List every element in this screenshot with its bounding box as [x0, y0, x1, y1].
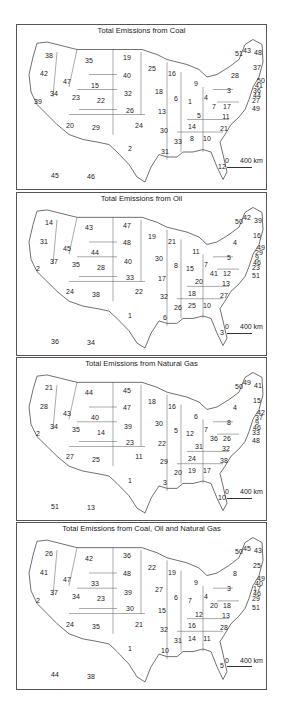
state-rank-ok: 11 [135, 453, 142, 460]
state-rank-ma: 37 [253, 64, 261, 71]
state-rank-ar: 29 [160, 458, 168, 465]
state-rank-va: 17 [223, 102, 231, 109]
state-rank-nd: 45 [123, 386, 131, 393]
state-rank-mn: 19 [148, 232, 156, 239]
state-rank-ny: 4 [233, 239, 237, 246]
state-rank-co: 14 [97, 428, 105, 435]
state-rank-sd: 47 [123, 404, 131, 411]
state-rank-ak: 38 [87, 672, 95, 679]
state-rank-ms: 33 [174, 137, 182, 144]
state-rank-ks: 23 [126, 438, 134, 445]
state-rank-ak: 13 [87, 503, 95, 510]
state-rank-vt: 50 [235, 218, 243, 225]
state-rank-wa: 14 [45, 219, 53, 226]
state-rank-dc: 51 [252, 272, 260, 279]
state-rank-ne: 40 [124, 257, 132, 264]
scale-bar [227, 496, 252, 499]
state-rank-id: 43 [63, 410, 71, 417]
state-rank-ky: 31 [195, 443, 203, 450]
state-rank-co: 22 [97, 96, 105, 103]
state-rank-or: 28 [40, 402, 48, 409]
state-rank-mt: 42 [85, 554, 93, 561]
panel-title: Total Emissions from Coal, Oil and Natur… [17, 524, 266, 533]
state-rank-md: 23 [252, 263, 260, 270]
state-rank-me: 41 [254, 381, 262, 388]
state-rank-ca: 2 [36, 264, 40, 271]
map-panel-coal: Total Emissions from Coal 38423947343515… [16, 24, 267, 190]
state-rank-al: 19 [188, 466, 196, 473]
scale-zero-label: 0 [225, 323, 229, 330]
state-rank-nd: 47 [123, 221, 131, 228]
state-rank-mo: 15 [158, 606, 166, 613]
state-rank-tx: 1 [128, 644, 132, 651]
state-rank-wv: 36 [210, 434, 218, 441]
state-rank-ia: 18 [155, 87, 163, 94]
state-rank-ne: 39 [124, 589, 132, 596]
state-rank-nv: 34 [50, 422, 58, 429]
state-rank-dc: 48 [252, 437, 260, 444]
state-rank-pa: 3 [227, 86, 231, 93]
state-rank-sd: 48 [123, 239, 131, 246]
state-rank-me: 43 [254, 547, 262, 554]
state-rank-az: 20 [66, 121, 74, 128]
state-rank-ny: 28 [231, 71, 239, 78]
state-rank-mt: 35 [85, 56, 93, 63]
state-rank-va: 18 [223, 601, 231, 608]
state-rank-ga: 10 [203, 135, 211, 142]
state-rank-ga: 17 [203, 466, 211, 473]
state-rank-nh: 49 [243, 379, 251, 386]
state-rank-mt: 44 [85, 389, 93, 396]
state-rank-wv: 7 [212, 102, 216, 109]
state-rank-ms: 31 [174, 637, 182, 644]
state-rank-ok: 21 [135, 620, 143, 627]
state-rank-ok: 22 [135, 288, 143, 295]
state-rank-az: 24 [66, 288, 74, 295]
state-rank-ky: 5 [197, 111, 201, 118]
panel-title: Total Emissions from Coal [17, 26, 266, 35]
state-rank-ks: 30 [126, 605, 134, 612]
state-rank-wa: 38 [45, 51, 53, 58]
state-rank-ms: 20 [174, 469, 182, 476]
state-rank-in: 15 [186, 264, 194, 271]
state-rank-ut: 35 [72, 261, 80, 268]
state-rank-wi: 16 [168, 70, 176, 77]
state-rank-ne: 32 [124, 90, 132, 97]
panel-title: Total Emissions from Natural Gas [17, 359, 266, 368]
state-rank-pa: 5 [227, 253, 231, 260]
state-rank-or: 41 [40, 568, 48, 575]
map-panel-oil: Total Emissions from Oil 143124537434435… [16, 192, 267, 356]
scale-zero-label: 0 [225, 488, 229, 495]
state-rank-al: 14 [188, 634, 196, 641]
state-rank-ne: 39 [124, 422, 132, 429]
state-rank-ca: 2 [36, 596, 40, 603]
state-rank-ga: 11 [203, 634, 210, 641]
state-rank-ar: 32 [160, 293, 168, 300]
state-rank-in: 7 [188, 596, 192, 603]
state-rank-nc: 13 [222, 611, 230, 618]
scale-label: 400 km [240, 657, 263, 664]
state-rank-nm: 38 [92, 290, 100, 297]
state-rank-wi: 21 [168, 237, 176, 244]
state-rank-tn: 14 [188, 122, 196, 129]
state-rank-nh: 45 [243, 544, 251, 551]
state-rank-tn: 24 [188, 454, 196, 461]
state-rank-hi: 44 [51, 671, 59, 678]
state-rank-ma: 16 [253, 231, 261, 238]
state-rank-pa: 8 [227, 418, 231, 425]
state-rank-nv: 37 [50, 257, 58, 264]
state-rank-tn: 16 [188, 621, 196, 628]
state-rank-oh: 4 [204, 592, 208, 599]
state-rank-dc: 51 [252, 604, 260, 611]
state-rank-ak: 34 [87, 338, 95, 345]
state-rank-mi: 6 [194, 412, 198, 419]
state-rank-ga: 10 [203, 301, 211, 308]
state-rank-ma: 25 [253, 562, 261, 569]
state-rank-id: 45 [63, 245, 71, 252]
state-rank-wy: 40 [91, 413, 99, 420]
state-rank-va: 26 [223, 434, 231, 441]
panel-title: Total Emissions from Oil [17, 194, 266, 203]
state-rank-al: 25 [188, 301, 196, 308]
state-rank-ks: 33 [126, 273, 134, 280]
state-rank-il: 6 [174, 594, 178, 601]
state-rank-id: 47 [63, 576, 71, 583]
